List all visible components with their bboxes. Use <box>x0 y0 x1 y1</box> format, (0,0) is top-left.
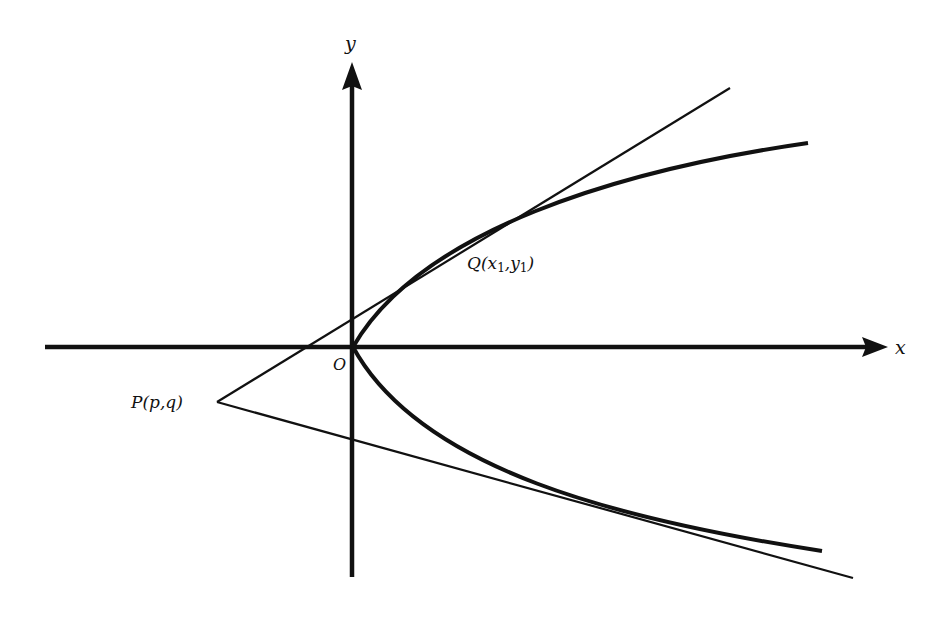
point-q-x-sub: 1 <box>497 261 505 275</box>
tangent-line-upper <box>217 88 730 402</box>
x-axis-label: x <box>895 336 906 358</box>
point-p-coords: (p,q) <box>142 392 182 412</box>
point-q-label: Q(x1,y1) <box>467 253 534 275</box>
y-axis-arrow-icon <box>342 62 362 90</box>
y-axis-label: y <box>345 32 356 54</box>
point-q-y: y <box>510 253 520 273</box>
point-p-name: P <box>131 392 142 412</box>
point-q-close: ) <box>527 253 534 273</box>
x-axis <box>45 337 888 357</box>
origin-label: O <box>333 355 346 374</box>
point-q-name: Q <box>467 253 481 273</box>
point-q-x: x <box>488 253 498 273</box>
tangent-line-lower <box>217 402 853 578</box>
point-q-open: ( <box>481 253 488 273</box>
point-p-label: P(p,q) <box>131 392 183 412</box>
parabola-tangent-diagram <box>0 0 940 628</box>
